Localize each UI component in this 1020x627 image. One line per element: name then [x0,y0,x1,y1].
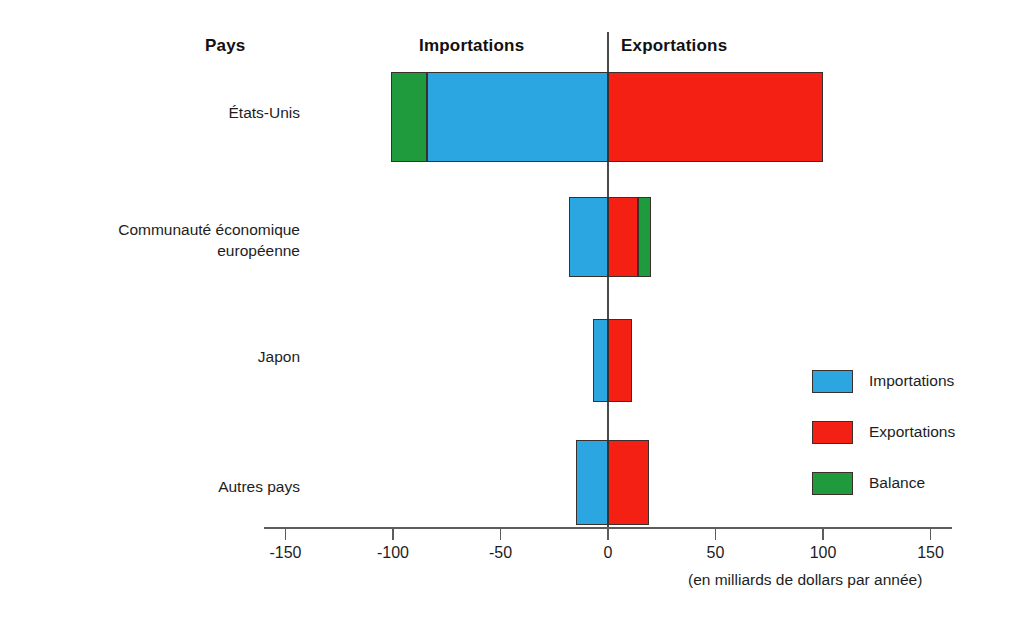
axis-tick-label: -50 [466,544,536,562]
plot-area [0,0,1020,627]
axis-tick [822,529,824,540]
axis-tick-label: 50 [681,544,751,562]
axis-tick [285,529,287,540]
axis-tick [392,529,394,540]
axis-tick-label: 0 [573,544,643,562]
bar-group [0,72,1020,162]
axis-tick-label: -100 [358,544,428,562]
legend-swatch-imports [812,370,853,393]
axis-tick [930,529,932,540]
bar-segment-imports [569,197,608,277]
chart-canvas: Pays Importations Exportations États-Uni… [0,0,1020,627]
bar-group [0,197,1020,277]
legend-swatch-exports [812,421,853,444]
axis-tick [500,529,502,540]
axis-tick-label: 100 [788,544,858,562]
bar-segment-exports [608,72,823,162]
chart-legend: ImportationsExportationsBalance [812,368,955,521]
legend-item: Importations [812,368,955,394]
bar-segment-imports [427,72,608,162]
legend-label: Balance [869,474,925,492]
bar-segment-imports [576,440,608,525]
axis-tick [607,529,609,540]
legend-item: Balance [812,470,955,496]
bar-segment-balance [638,197,651,277]
legend-swatch-balance [812,472,853,495]
axis-tick-label: -150 [251,544,321,562]
axis-tick [715,529,717,540]
bar-segment-exports [608,440,649,525]
axis-tick-label: 150 [896,544,966,562]
bar-segment-balance [391,72,428,162]
legend-label: Exportations [869,423,955,441]
axis-caption: (en milliards de dollars par année) [688,571,922,589]
bar-segment-imports [593,319,608,402]
bar-segment-exports [608,197,638,277]
legend-label: Importations [869,372,954,390]
legend-item: Exportations [812,419,955,445]
bar-segment-exports [608,319,632,402]
